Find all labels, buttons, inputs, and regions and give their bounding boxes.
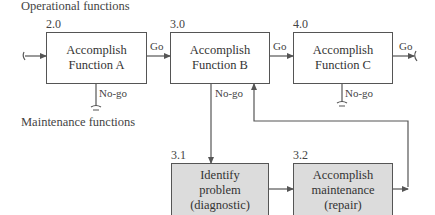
accomplish-maintenance-box: Accomplish maintenance (repair) [293,163,393,215]
function-a-line1: Accomplish [66,43,126,58]
go-label-b-c: Go [273,40,286,52]
maintenance-section-title: Maintenance functions [21,115,135,130]
identify-line2: problem [199,183,241,198]
nogo-a-ground-icon [91,106,101,111]
identify-problem-box: Identify problem (diagnostic) [171,163,269,215]
box-number-3-0: 3.0 [170,17,185,32]
maintenance-line2: maintenance [311,183,374,198]
function-a-line2: Function A [69,58,125,73]
function-c-line1: Accomplish [313,43,373,58]
go-label-a-b: Go [150,40,163,52]
identify-line3: (diagnostic) [190,198,250,213]
maintenance-line1: Accomplish [313,168,373,183]
function-b-line1: Accomplish [190,43,250,58]
box-number-3-1: 3.1 [171,148,186,163]
input-break-icon [23,52,25,60]
function-c-line2: Function C [315,58,371,73]
maintenance-line3: (repair) [324,198,361,213]
nogo-c-ground-icon [337,102,347,107]
function-b-line2: Function B [192,58,248,73]
box-number-2-0: 2.0 [46,17,61,32]
identify-line1: Identify [200,168,240,183]
nogo-label-c: No-go [345,87,373,99]
box-number-3-2: 3.2 [293,148,308,163]
nogo-label-a: No-go [99,87,127,99]
nogo-label-b: No-go [215,87,243,99]
function-a-box: Accomplish Function A [46,32,147,84]
box-number-4-0: 4.0 [293,17,308,32]
function-c-box: Accomplish Function C [293,32,393,84]
function-b-box: Accomplish Function B [170,32,270,84]
output-break-icon [415,51,417,61]
go-label-out: Go [399,40,412,52]
operational-section-title: Operational functions [21,0,130,14]
